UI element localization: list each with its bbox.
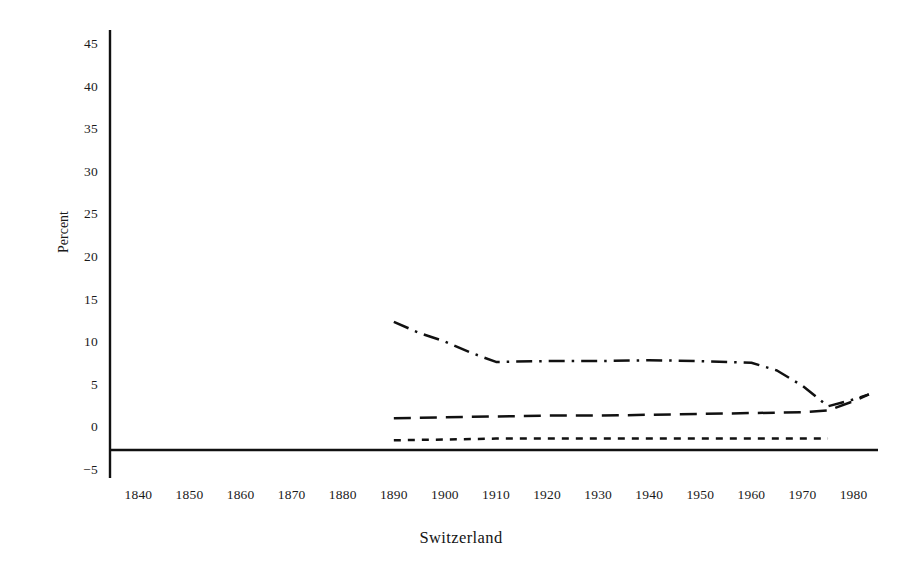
y-axis-title: Percent bbox=[56, 192, 72, 272]
y-tick-label: 10 bbox=[52, 334, 98, 350]
y-tick-label: −5 bbox=[52, 462, 98, 478]
series-short-dash bbox=[394, 439, 828, 441]
x-tick-label: 1940 bbox=[622, 487, 676, 503]
y-tick-label: 45 bbox=[52, 36, 98, 52]
x-tick-label: 1900 bbox=[418, 487, 472, 503]
chart-figure: −5051015202530354045 1840185018601870188… bbox=[0, 0, 922, 562]
x-tick-label: 1870 bbox=[265, 487, 319, 503]
x-tick-label: 1960 bbox=[724, 487, 778, 503]
y-tick-label: 0 bbox=[52, 419, 98, 435]
x-tick-label: 1880 bbox=[316, 487, 370, 503]
x-tick-label: 1920 bbox=[520, 487, 574, 503]
x-tick-label: 1850 bbox=[163, 487, 217, 503]
y-tick-label: 30 bbox=[52, 164, 98, 180]
y-tick-label: 40 bbox=[52, 79, 98, 95]
x-tick-label: 1910 bbox=[469, 487, 523, 503]
x-tick-label: 1890 bbox=[367, 487, 421, 503]
y-tick-label: 15 bbox=[52, 292, 98, 308]
x-tick-label: 1970 bbox=[775, 487, 829, 503]
x-tick-label: 1930 bbox=[571, 487, 625, 503]
x-tick-label: 1950 bbox=[673, 487, 727, 503]
y-tick-label: 35 bbox=[52, 121, 98, 137]
series-layer bbox=[394, 322, 869, 440]
y-tick-label: 5 bbox=[52, 377, 98, 393]
figure-caption: Switzerland bbox=[0, 528, 922, 548]
x-tick-label: 1840 bbox=[111, 487, 165, 503]
x-tick-label: 1860 bbox=[214, 487, 268, 503]
chart-plot-area bbox=[0, 0, 922, 562]
series-long-dash bbox=[394, 394, 869, 418]
series-dash-dot bbox=[394, 322, 869, 406]
x-tick-label: 1980 bbox=[827, 487, 881, 503]
